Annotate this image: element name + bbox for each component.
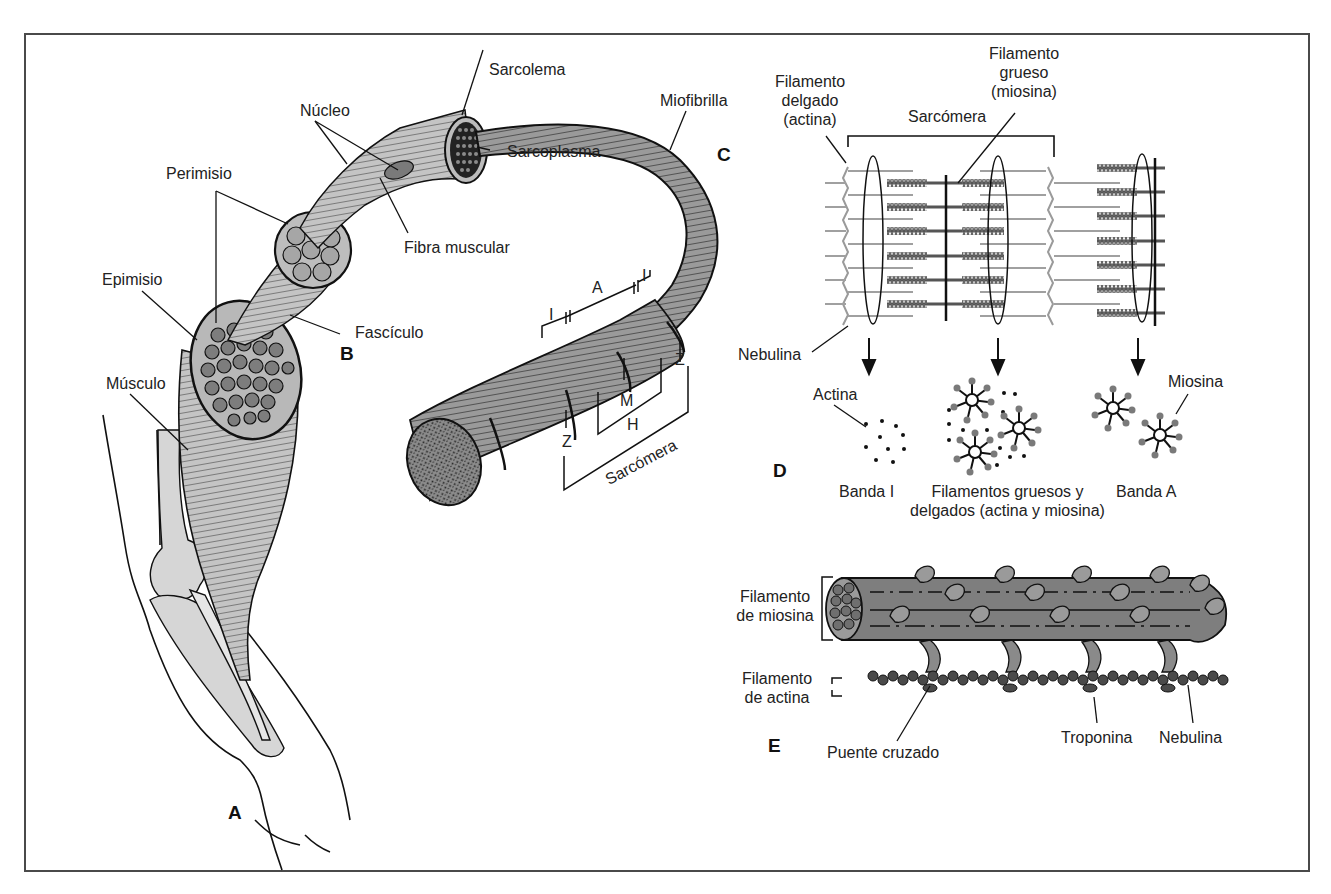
muscle-fiber-drawing [300, 110, 487, 248]
label-band-i-2: I [642, 266, 646, 285]
label-nebulina-e: Nebulina [1159, 728, 1222, 747]
cross-bridges [920, 640, 1177, 672]
label-m-line: M [620, 391, 633, 410]
label-miofibrilla: Miofibrilla [660, 91, 728, 110]
label-sarcomera-d: Sarcómera [908, 107, 986, 126]
label-troponina: Troponina [1061, 728, 1132, 747]
myosin-cross-sections [951, 378, 1183, 476]
panel-label-b: B [340, 343, 354, 365]
sarcomere-filaments [825, 136, 1165, 374]
arrow-icons [863, 338, 1144, 374]
label-epimisio: Epimisio [102, 270, 162, 289]
thick-filaments [887, 164, 1165, 317]
panel-label-e: E [768, 735, 781, 757]
label-sarcoplasma: Sarcoplasma [507, 142, 600, 161]
label-miosina: Miosina [1168, 372, 1223, 391]
panel-label-c: C [717, 144, 731, 166]
label-z-right: Z [675, 350, 685, 369]
panel-label-a: A [228, 802, 242, 824]
label-nucleo: Núcleo [300, 101, 350, 120]
label-sarcolema: Sarcolema [489, 60, 565, 79]
label-band-i: I [549, 305, 553, 324]
label-filamento-miosina: Filamento de miosina [732, 587, 818, 625]
label-band-a: A [592, 278, 603, 297]
label-musculo: Músculo [106, 374, 166, 393]
actin-filament-drawing [868, 671, 1228, 692]
label-h-zone: H [627, 415, 639, 434]
label-nebulina-d: Nebulina [738, 345, 801, 364]
label-perimisio: Perimisio [166, 164, 232, 183]
label-banda-a: Banda A [1116, 482, 1177, 501]
label-z-left: Z [562, 432, 572, 451]
label-filamento-grueso: Filamento grueso (miosina) [984, 44, 1064, 101]
cross-section-dots [864, 391, 1026, 467]
label-filamento-delgado: Filamento delgado (actina) [770, 72, 850, 129]
label-actina: Actina [813, 385, 857, 404]
label-banda-i: Banda I [839, 482, 894, 501]
label-fibra-muscular: Fibra muscular [404, 238, 510, 257]
label-filamento-actina: Filamento de actina [734, 669, 820, 707]
label-filamentos-mixtos: Filamentos gruesos y delgados (actina y … [895, 482, 1120, 520]
label-puente-cruzado: Puente cruzado [827, 743, 939, 762]
label-fasciculo: Fascículo [355, 323, 423, 342]
panel-label-d: D [773, 460, 787, 482]
myosin-filament-drawing [826, 566, 1226, 672]
thin-filaments [825, 171, 1120, 316]
